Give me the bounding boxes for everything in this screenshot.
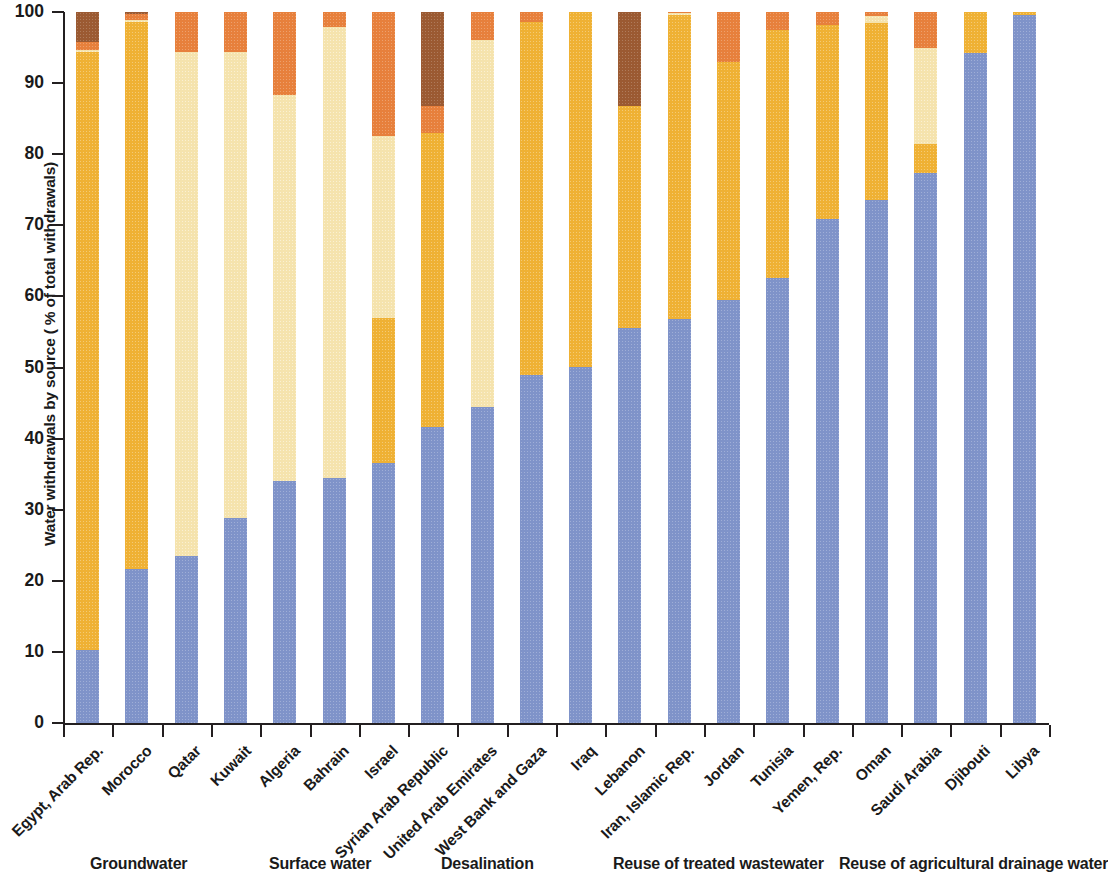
bar-segment	[717, 62, 740, 300]
bar-segment	[372, 12, 395, 136]
y-tick-label: 0	[0, 712, 44, 733]
bar-segment	[76, 52, 99, 650]
legend-swatch-icon	[245, 856, 262, 873]
bar-segment	[816, 25, 839, 219]
bar-west-bank-and-gaza[interactable]	[520, 12, 543, 723]
x-tick-label-text: Algeria	[255, 742, 304, 791]
bar-segment	[273, 12, 296, 95]
y-tick-label: 80	[0, 143, 44, 164]
x-tick-label-text: Oman	[852, 742, 895, 785]
bar-qatar[interactable]	[175, 12, 198, 723]
y-tick-label: 40	[0, 428, 44, 449]
x-tick-label-text: Jordan	[699, 742, 747, 790]
bar-segment	[323, 478, 346, 723]
x-tick-label-text: Iraq	[567, 742, 599, 774]
bar-bahrain[interactable]	[323, 12, 346, 723]
bar-segment	[76, 650, 99, 723]
legend-item-reuse-of-agricultural-drainage-water[interactable]: Reuse of agricultural drainage water	[815, 855, 1108, 873]
x-tick-label-text: Libya	[1002, 742, 1043, 783]
bar-segment	[323, 27, 346, 478]
chart-legend: GroundwaterSurface waterDesalinationReus…	[0, 855, 1055, 883]
bar-djibouti[interactable]	[964, 12, 987, 723]
bar-lebanon[interactable]	[618, 12, 641, 723]
x-tick-label-text: Egypt, Arab Rep.	[8, 742, 106, 840]
bar-oman[interactable]	[865, 12, 888, 723]
bar-segment	[471, 12, 494, 40]
bar-saudi-arabia[interactable]	[914, 12, 937, 723]
bar-segment	[964, 53, 987, 723]
bar-segment	[717, 12, 740, 62]
legend-label: Groundwater	[90, 855, 187, 873]
bar-tunisia[interactable]	[766, 12, 789, 723]
y-tick-label: 30	[0, 499, 44, 520]
bar-segment	[224, 52, 247, 518]
legend-item-surface-water[interactable]: Surface water	[245, 855, 371, 873]
bar-segment	[618, 12, 641, 106]
bar-segment	[717, 300, 740, 723]
bar-segment	[224, 12, 247, 52]
bar-algeria[interactable]	[273, 12, 296, 723]
bar-segment	[816, 219, 839, 723]
bar-united-arab-emirates[interactable]	[471, 12, 494, 723]
bar-segment	[618, 106, 641, 329]
legend-label: Desalination	[441, 855, 534, 873]
bar-segment	[520, 22, 543, 375]
x-tick-mark	[63, 725, 65, 737]
y-tick-label: 20	[0, 570, 44, 591]
legend-label: Reuse of agricultural drainage water	[839, 855, 1108, 873]
bar-segment	[224, 518, 247, 723]
bar-iran-islamic-rep[interactable]	[668, 12, 691, 723]
bar-segment	[175, 52, 198, 556]
bar-segment	[964, 12, 987, 53]
bar-jordan[interactable]	[717, 12, 740, 723]
bar-segment	[421, 12, 444, 106]
bar-segment	[914, 173, 937, 723]
bar-segment	[421, 133, 444, 427]
bar-segment	[569, 12, 592, 367]
bar-egypt-arab-rep[interactable]	[76, 12, 99, 723]
y-tick-label: 10	[0, 641, 44, 662]
bar-segment	[668, 319, 691, 723]
bar-segment	[273, 481, 296, 723]
y-axis-title: Water withdrawals by source ( % of total…	[41, 4, 59, 704]
bar-segment	[372, 318, 395, 463]
bar-segment	[865, 23, 888, 200]
legend-swatch-icon	[66, 856, 83, 873]
bar-israel[interactable]	[372, 12, 395, 723]
bar-segment	[816, 12, 839, 25]
bar-segment	[76, 42, 99, 51]
bar-segment	[323, 12, 346, 27]
bar-segment	[471, 40, 494, 407]
legend-swatch-icon	[815, 856, 832, 873]
legend-label: Surface water	[269, 855, 371, 873]
y-tick-label: 90	[0, 72, 44, 93]
bar-morocco[interactable]	[125, 12, 148, 723]
bar-segment	[125, 22, 148, 569]
y-tick-label: 50	[0, 357, 44, 378]
bar-kuwait[interactable]	[224, 12, 247, 723]
x-tick-label: Iraq	[587, 722, 619, 754]
bar-libya[interactable]	[1013, 12, 1036, 723]
bar-iraq[interactable]	[569, 12, 592, 723]
legend-item-desalination[interactable]: Desalination	[417, 855, 534, 873]
bar-segment	[372, 463, 395, 723]
legend-item-reuse-of-treated-wastewater[interactable]: Reuse of treated wastewater	[589, 855, 824, 873]
bar-segment	[766, 12, 789, 30]
bar-segment	[520, 12, 543, 22]
y-tick-label: 70	[0, 214, 44, 235]
bar-segment	[76, 12, 99, 42]
bar-segment	[914, 144, 937, 173]
bar-syrian-arab-republic[interactable]	[421, 12, 444, 723]
legend-label: Reuse of treated wastewater	[613, 855, 824, 873]
legend-item-groundwater[interactable]: Groundwater	[66, 855, 187, 873]
bar-segment	[914, 48, 937, 143]
x-tick-label-text: Israel	[362, 742, 403, 783]
bar-yemen-rep[interactable]	[816, 12, 839, 723]
x-tick-label-text: Qatar	[164, 742, 205, 783]
y-tick-label: 100	[0, 1, 44, 22]
bar-segment	[175, 12, 198, 52]
bar-segment	[421, 427, 444, 723]
x-tick-label-text: Iran, Islamic Rep.	[598, 742, 698, 842]
y-tick-label: 60	[0, 285, 44, 306]
